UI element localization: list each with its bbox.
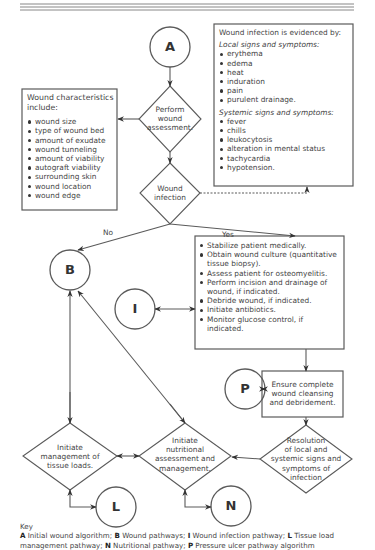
node-p: P <box>225 381 265 397</box>
list-item: amount of viability <box>27 154 115 163</box>
list-item: type of wound bed <box>27 126 115 135</box>
node-l: L <box>96 499 136 515</box>
key-text-i: Wound infection pathway; <box>193 531 286 540</box>
local-signs-heading: Local signs and symptoms: <box>219 40 351 49</box>
wound-characteristics-list: wound size type of wound bed amount of e… <box>27 117 115 200</box>
list-item: alteration in mental status <box>219 144 351 153</box>
list-item: Assess patient for osteomyelitis. <box>199 269 342 278</box>
node-a: A <box>150 39 190 55</box>
key-code-n: N <box>105 541 111 550</box>
list-item: induration <box>219 77 351 86</box>
key-heading: Key <box>20 522 375 531</box>
list-item: Monitor glucose control, if indicated. <box>199 315 342 333</box>
list-item: wound size <box>27 117 115 126</box>
list-item: pain <box>219 86 351 95</box>
key-text-p: Pressure ulcer pathway algorithm <box>195 541 314 550</box>
resolution-text: Resolution of local and systemic signs a… <box>258 436 354 482</box>
infection-evidence-title: Wound infection is evidenced by: <box>219 28 351 37</box>
list-item: wound location <box>27 182 115 191</box>
tissue-loads-text: Initiate management of tissue loads. <box>25 443 115 471</box>
key-text-n: Nutritional pathway; <box>113 541 186 550</box>
list-item: surrounding skin <box>27 172 115 181</box>
wound-infection-text: Wound infection <box>140 184 200 202</box>
key-code-p: P <box>188 541 193 550</box>
list-item: Stabilize patient medically. <box>199 241 342 250</box>
edge-label-no: No <box>103 228 113 237</box>
key-entries: A Initial wound algorithm; B Wound pathw… <box>20 531 375 550</box>
list-item: tachycardia <box>219 154 351 163</box>
list-item: wound tunneling <box>27 145 115 154</box>
list-item: heat <box>219 68 351 77</box>
list-item: Debride wound, if indicated. <box>199 296 342 305</box>
infection-actions: Stabilize patient medically. Obtain woun… <box>199 241 342 333</box>
list-item: erythema <box>219 49 351 58</box>
key-text-b: Wound pathways; <box>122 531 185 540</box>
list-item: Initiate antibiotics. <box>199 305 342 314</box>
legend-key: Key A Initial wound algorithm; B Wound p… <box>20 522 375 550</box>
list-item: edema <box>219 59 351 68</box>
wound-characteristics-title: Wound characteristics include: <box>27 93 115 112</box>
list-item: hypotension. <box>219 163 351 172</box>
systemic-signs-list: fever chills leukocytosis alteration in … <box>219 117 351 172</box>
key-code-i: I <box>188 531 191 540</box>
key-code-b: B <box>114 531 119 540</box>
list-item: chills <box>219 126 351 135</box>
list-item: fever <box>219 117 351 126</box>
list-item: Perform incision and drainage of wound, … <box>199 278 342 296</box>
ensure-cleansing-text: Ensure complete wound cleansing and debr… <box>262 380 343 408</box>
node-b: B <box>50 262 90 278</box>
node-n: N <box>211 498 251 514</box>
systemic-signs-heading: Systemic signs and symptoms: <box>219 108 351 117</box>
list-item: amount of exudate <box>27 136 115 145</box>
list-item: autograft viability <box>27 163 115 172</box>
list-item: leukocytosis <box>219 135 351 144</box>
perform-assessment-text: Perform wound assessment. <box>140 105 200 133</box>
key-code-a: A <box>20 531 26 540</box>
infection-evidence: Wound infection is evidenced by: Local s… <box>219 28 351 172</box>
nutritional-text: Initiate nutritional assessment and mana… <box>140 436 230 473</box>
key-code-l: L <box>287 531 292 540</box>
local-signs-list: erythema edema heat induration pain puru… <box>219 49 351 104</box>
edge-label-yes: Yes <box>222 230 234 239</box>
list-item: wound edge <box>27 191 115 200</box>
wound-characteristics: Wound characteristics include: wound siz… <box>27 93 115 200</box>
list-item: Obtain wound culture (quantitative tissu… <box>199 250 342 268</box>
list-item: purulent drainage. <box>219 95 351 104</box>
infection-actions-list: Stabilize patient medically. Obtain woun… <box>199 241 342 333</box>
node-i: I <box>115 301 155 317</box>
key-text-a: Initial wound algorithm; <box>28 531 112 540</box>
